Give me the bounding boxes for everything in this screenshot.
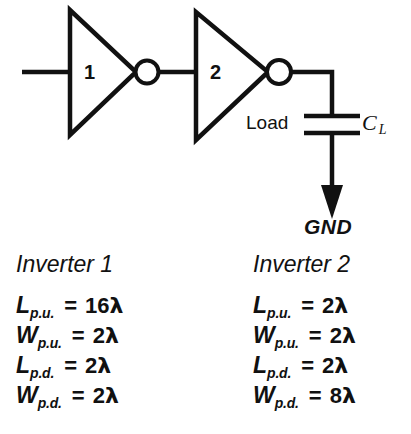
param-row: Wp.u. = 2λ — [253, 324, 356, 354]
param-subscript: p.d. — [267, 366, 291, 380]
param-symbol: W — [253, 384, 275, 407]
param-equals: = — [291, 355, 322, 377]
inverter-2-bubble-icon — [267, 60, 291, 84]
param-value: 2 — [93, 325, 105, 347]
param-symbol: L — [253, 354, 267, 377]
param-equals: = — [54, 355, 85, 377]
param-value: 16 — [85, 295, 109, 317]
param-row: Wp.d. = 8λ — [253, 384, 356, 414]
inverter-1-number: 1 — [84, 62, 95, 82]
param-value: 2 — [85, 355, 97, 377]
param-symbol: L — [253, 294, 267, 317]
param-equals: = — [62, 325, 93, 347]
output-wire — [291, 72, 332, 116]
param-row: Lp.u. = 2λ — [253, 294, 356, 324]
param-unit: λ — [97, 355, 111, 377]
param-unit: λ — [334, 295, 348, 317]
param-unit: λ — [105, 325, 119, 347]
param-symbol: W — [16, 324, 38, 347]
param-equals: = — [62, 385, 93, 407]
param-row: Wp.u. = 2λ — [16, 324, 123, 354]
param-unit: λ — [342, 325, 356, 347]
param-symbol: L — [16, 294, 30, 317]
param-row: Lp.u. = 16λ — [16, 294, 123, 324]
param-unit: λ — [334, 355, 348, 377]
param-equals: = — [291, 295, 322, 317]
load-label: Load — [246, 113, 288, 132]
param-unit: λ — [110, 295, 124, 317]
param-row: Lp.d. = 2λ — [16, 354, 123, 384]
param-subscript: p.u. — [267, 306, 291, 320]
param-unit: λ — [342, 385, 356, 407]
inverter-1-bubble-icon — [136, 61, 159, 84]
param-symbol: L — [16, 354, 30, 377]
inverter-2-number: 2 — [210, 62, 221, 82]
capacitor-symbol: C — [362, 110, 377, 135]
ground-arrow-icon — [321, 185, 343, 219]
capacitor-subscript: L — [377, 122, 387, 137]
param-equals: = — [299, 325, 330, 347]
inverter-2-parameters: Inverter 2 Lp.u. = 2λ Wp.u. = 2λ Lp.d. =… — [253, 253, 356, 414]
inverter-1-parameters: Inverter 1 Lp.u. = 16λ Wp.u. = 2λ Lp.d. … — [16, 253, 123, 414]
param-equals: = — [299, 385, 330, 407]
param-value: 8 — [330, 385, 342, 407]
param-row: Wp.d. = 2λ — [16, 384, 123, 414]
param-subscript: p.d. — [275, 396, 299, 410]
capacitor-label: CL — [362, 112, 386, 137]
param-subscript: p.u. — [38, 336, 62, 350]
param-value: 2 — [93, 385, 105, 407]
param-unit: λ — [105, 385, 119, 407]
param-equals: = — [54, 295, 85, 317]
param-value: 2 — [330, 325, 342, 347]
inverter-1-title: Inverter 1 — [16, 253, 123, 276]
param-subscript: p.d. — [38, 396, 62, 410]
ground-label: GND — [304, 216, 352, 237]
param-row: Lp.d. = 2λ — [253, 354, 356, 384]
param-symbol: W — [16, 384, 38, 407]
param-subscript: p.d. — [30, 366, 54, 380]
param-value: 2 — [322, 355, 334, 377]
inverter-1-triangle — [70, 10, 136, 135]
param-value: 2 — [322, 295, 334, 317]
inverter-2-title: Inverter 2 — [253, 253, 356, 276]
param-subscript: p.u. — [275, 336, 299, 350]
param-symbol: W — [253, 324, 275, 347]
param-subscript: p.u. — [30, 306, 54, 320]
inverter-chain-schematic — [0, 0, 411, 250]
